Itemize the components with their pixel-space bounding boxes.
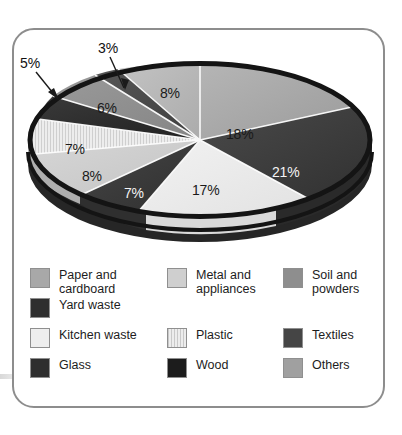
legend-swatch-icon-wood [167, 358, 187, 378]
slice-label-kitchen-waste: 17% [192, 182, 219, 198]
slice-label-plastic: 7% [65, 141, 85, 157]
legend-label-line2: appliances [196, 283, 256, 297]
legend-label-line1: Others [312, 359, 350, 373]
pie-chart-area: 18% 21% 17% 7% 8% 7% 6% 8% 3% 5% [14, 30, 387, 270]
legend-label-line2: cardboard [59, 283, 117, 297]
callout-label-textiles: 3% [98, 40, 118, 56]
legend-label-glass: Glass [59, 358, 91, 373]
legend-label-line1: Textiles [312, 329, 354, 343]
legend-item-kitchen-waste[interactable]: Kitchen waste [30, 328, 137, 348]
legend-item-textiles[interactable]: Textiles [283, 328, 354, 348]
legend-label-line1: Soil and [312, 269, 359, 283]
slice-label-paper-and-cardboard: 18% [226, 126, 253, 142]
legend-label-yard-waste: Yard waste [59, 298, 121, 313]
legend-label-others: Others [312, 358, 350, 373]
callout-label-wood: 5% [20, 55, 40, 71]
legend-label-metal-and-appliances: Metal and appliances [196, 268, 256, 296]
slice-label-yard-waste: 21% [272, 164, 299, 180]
legend-label-line1: Metal and [196, 269, 256, 283]
slice-label-metal-and-appliances: 8% [82, 168, 102, 184]
legend-swatch-icon-metal-and-appliances [167, 268, 187, 288]
legend-label-paper-and-cardboard: Paper and cardboard [59, 268, 117, 296]
chart-card: 18% 21% 17% 7% 8% 7% 6% 8% 3% 5% Paper a… [12, 28, 385, 408]
legend-label-line1: Yard waste [59, 299, 121, 313]
legend-label-line1: Paper and [59, 269, 117, 283]
legend-swatch-icon-soil-and-powders [283, 268, 303, 288]
legend-label-wood: Wood [196, 358, 228, 373]
legend-label-textiles: Textiles [312, 328, 354, 343]
legend-swatch-icon-plastic [167, 328, 187, 348]
legend-label-kitchen-waste: Kitchen waste [59, 328, 137, 343]
legend-label-plastic: Plastic [196, 328, 233, 343]
legend-swatch-icon-others [283, 358, 303, 378]
legend-item-paper-and-cardboard[interactable]: Paper and cardboard [30, 268, 117, 296]
slice-label-soil-and-powders: 6% [97, 100, 117, 116]
legend-item-wood[interactable]: Wood [167, 358, 228, 378]
legend-label-line1: Wood [196, 359, 228, 373]
legend-item-yard-waste[interactable]: Yard waste [30, 298, 121, 318]
legend-item-plastic[interactable]: Plastic [167, 328, 233, 348]
legend-label-line1: Kitchen waste [59, 329, 137, 343]
slice-label-glass: 7% [124, 185, 144, 201]
chart-legend: Paper and cardboard Yard waste Kitchen w… [14, 268, 387, 410]
legend-label-line1: Plastic [196, 329, 233, 343]
legend-label-line2: powders [312, 283, 359, 297]
legend-swatch-icon-kitchen-waste [30, 328, 50, 348]
slice-label-others: 8% [160, 85, 180, 101]
legend-item-metal-and-appliances[interactable]: Metal and appliances [167, 268, 256, 296]
legend-swatch-icon-glass [30, 358, 50, 378]
legend-swatch-icon-yard-waste [30, 298, 50, 318]
legend-label-line1: Glass [59, 359, 91, 373]
legend-swatch-icon-textiles [283, 328, 303, 348]
legend-label-soil-and-powders: Soil and powders [312, 268, 359, 296]
legend-item-glass[interactable]: Glass [30, 358, 91, 378]
legend-item-others[interactable]: Others [283, 358, 350, 378]
legend-swatch-icon-paper-and-cardboard [30, 268, 50, 288]
legend-item-soil-and-powders[interactable]: Soil and powders [283, 268, 359, 296]
